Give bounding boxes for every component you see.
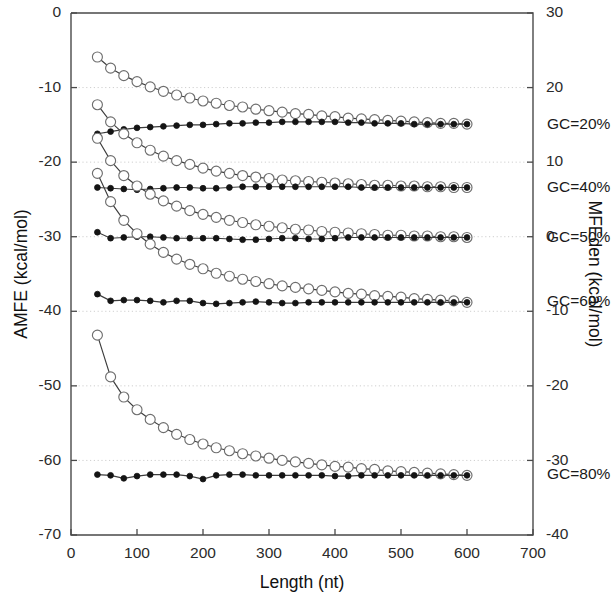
filled-circle-marker bbox=[147, 124, 153, 130]
open-circle-marker bbox=[198, 209, 208, 219]
open-circle-marker bbox=[92, 52, 102, 62]
filled-circle-marker bbox=[306, 119, 312, 125]
filled-circle-marker bbox=[279, 472, 285, 478]
filled-circle-marker bbox=[240, 184, 246, 190]
x-tick-label: 0 bbox=[67, 544, 76, 561]
filled-circle-marker bbox=[253, 184, 259, 190]
filled-circle-marker bbox=[359, 185, 365, 191]
filled-circle-marker bbox=[174, 185, 180, 191]
open-circle-marker bbox=[172, 156, 182, 166]
open-circle-marker bbox=[132, 138, 142, 148]
filled-circle-marker bbox=[385, 185, 391, 191]
filled-circle-marker bbox=[332, 119, 338, 125]
filled-circle-marker bbox=[161, 472, 167, 478]
filled-circle-marker bbox=[213, 235, 219, 241]
series-annotation-label: GC=40% bbox=[547, 178, 611, 195]
filled-circle-marker bbox=[200, 300, 206, 306]
open-circle-marker bbox=[132, 405, 142, 415]
filled-circle-marker bbox=[319, 119, 325, 125]
filled-circle-marker bbox=[464, 299, 470, 305]
filled-circle-marker bbox=[108, 472, 114, 478]
y-axis-title: AMFE (kcal/mol) bbox=[11, 209, 31, 338]
open-circle-marker bbox=[158, 151, 168, 161]
filled-circle-marker bbox=[279, 184, 285, 190]
open-circle-marker bbox=[211, 443, 221, 453]
filled-circle-marker bbox=[147, 298, 153, 304]
x-tick-label: 200 bbox=[190, 544, 216, 561]
filled-circle-marker bbox=[451, 472, 457, 478]
filled-circle-marker bbox=[121, 186, 127, 192]
open-circle-marker bbox=[264, 279, 274, 289]
filled-circle-marker bbox=[306, 184, 312, 190]
filled-circle-marker bbox=[359, 472, 365, 478]
x-tick-label: 100 bbox=[124, 544, 150, 561]
filled-circle-marker bbox=[240, 299, 246, 305]
filled-circle-marker bbox=[200, 185, 206, 191]
filled-circle-marker bbox=[174, 235, 180, 241]
filled-circle-marker bbox=[187, 298, 193, 304]
series-annotation-label: GC=60% bbox=[547, 292, 611, 309]
filled-circle-marker bbox=[200, 122, 206, 128]
y2-tick-label: 30 bbox=[546, 3, 564, 20]
open-circle-marker bbox=[290, 457, 300, 467]
filled-circle-marker bbox=[425, 235, 431, 241]
filled-circle-marker bbox=[359, 120, 365, 126]
open-circle-marker bbox=[304, 284, 314, 294]
x-tick-label: 500 bbox=[388, 544, 414, 561]
series-gc-80-mfeden bbox=[95, 472, 470, 482]
open-circle-marker bbox=[132, 77, 142, 87]
open-circle-marker bbox=[185, 259, 195, 269]
open-circle-marker bbox=[172, 201, 182, 211]
open-circle-marker bbox=[224, 271, 234, 281]
filled-circle-marker bbox=[174, 298, 180, 304]
open-circle-marker bbox=[224, 215, 234, 225]
filled-circle-marker bbox=[332, 235, 338, 241]
open-circle-marker bbox=[106, 156, 116, 166]
open-circle-marker bbox=[277, 281, 287, 291]
filled-circle-marker bbox=[200, 476, 206, 482]
filled-circle-marker bbox=[345, 235, 351, 241]
filled-circle-marker bbox=[253, 299, 259, 305]
filled-circle-marker bbox=[161, 185, 167, 191]
open-circle-marker bbox=[172, 90, 182, 100]
filled-circle-marker bbox=[121, 475, 127, 481]
x-tick-label: 600 bbox=[454, 544, 480, 561]
filled-circle-marker bbox=[451, 121, 457, 127]
filled-circle-marker bbox=[227, 236, 233, 242]
filled-circle-marker bbox=[359, 235, 365, 241]
filled-circle-marker bbox=[385, 472, 391, 478]
filled-circle-marker bbox=[213, 472, 219, 478]
filled-circle-marker bbox=[411, 185, 417, 191]
open-circle-marker bbox=[185, 435, 195, 445]
filled-circle-marker bbox=[95, 229, 101, 235]
filled-circle-marker bbox=[253, 472, 259, 478]
x-tick-label: 300 bbox=[256, 544, 282, 561]
open-circle-marker bbox=[119, 71, 129, 81]
open-circle-marker bbox=[211, 98, 221, 108]
filled-circle-marker bbox=[108, 298, 114, 304]
filled-circle-marker bbox=[319, 236, 325, 242]
open-circle-marker bbox=[145, 145, 155, 155]
filled-circle-marker bbox=[161, 299, 167, 305]
filled-circle-marker bbox=[385, 299, 391, 305]
filled-circle-marker bbox=[266, 472, 272, 478]
filled-circle-marker bbox=[187, 473, 193, 479]
filled-circle-marker bbox=[240, 472, 246, 478]
y-tick-label: -40 bbox=[39, 301, 62, 318]
open-circle-marker bbox=[198, 163, 208, 173]
filled-circle-marker bbox=[438, 472, 444, 478]
open-circle-marker bbox=[158, 196, 168, 206]
open-circle-marker bbox=[251, 276, 261, 286]
open-circle-marker bbox=[119, 392, 129, 402]
open-circle-marker bbox=[211, 212, 221, 222]
filled-circle-marker bbox=[385, 235, 391, 241]
open-circle-marker bbox=[356, 289, 366, 299]
open-circle-marker bbox=[132, 229, 142, 239]
y2-tick-label: -20 bbox=[546, 376, 569, 393]
filled-circle-marker bbox=[464, 235, 470, 241]
filled-circle-marker bbox=[95, 185, 101, 191]
filled-circle-marker bbox=[134, 473, 140, 479]
filled-circle-marker bbox=[293, 472, 299, 478]
open-circle-marker bbox=[92, 168, 102, 178]
filled-circle-marker bbox=[372, 472, 378, 478]
